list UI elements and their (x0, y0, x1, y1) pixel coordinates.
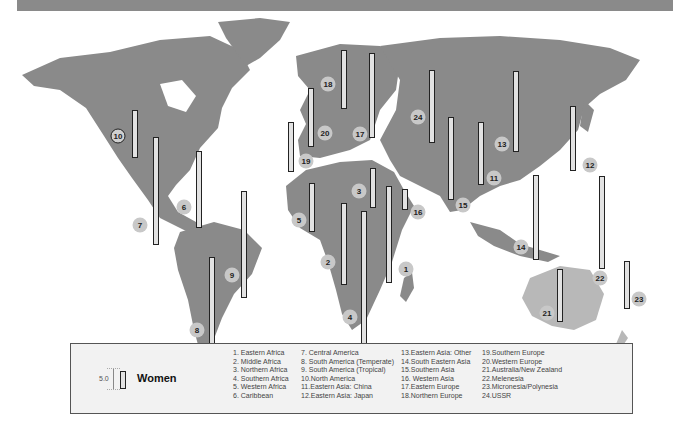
region-bar (288, 122, 294, 172)
region-bar (533, 175, 539, 260)
region-bar (308, 88, 314, 147)
scale-arrow-icon (113, 368, 114, 390)
region-bar (386, 186, 392, 283)
legend-item: 2. Middle Africa (233, 358, 289, 367)
legend-column-2: 7. Central America 8. South America (Tem… (301, 349, 394, 401)
legend-key: 5.0 Women (93, 368, 173, 392)
region-bar (478, 122, 484, 185)
region-number-marker: 7 (133, 218, 148, 233)
region-bar (209, 257, 215, 356)
region-number-marker: 1 (399, 262, 414, 277)
region-bar (153, 137, 159, 245)
region-number-marker: 9 (225, 268, 240, 283)
region-bar (402, 189, 408, 210)
legend-item: 17.Eastern Europe (401, 383, 471, 392)
region-bar (309, 183, 315, 232)
region-number-marker: 19 (299, 154, 314, 169)
region-bar (448, 117, 454, 200)
region-number-marker: 22 (593, 271, 608, 286)
region-bar (341, 50, 347, 109)
legend-item: 15.Southern Asia (401, 366, 471, 375)
region-bar (557, 269, 563, 322)
region-number-marker: 3 (352, 184, 367, 199)
legend-item: 13.Eastern Asia: Other (401, 349, 471, 358)
region-number-marker: 4 (343, 310, 358, 325)
legend-item: 12.Eastern Asia: Japan (301, 392, 394, 401)
legend-item: 23.Micronesia/Polynesia (482, 383, 562, 392)
region-bar (599, 176, 605, 269)
region-number-marker: 6 (177, 200, 192, 215)
region-number-marker: 11 (487, 171, 502, 186)
region-number-marker: 2 (321, 255, 336, 270)
region-number-marker: 12 (583, 158, 598, 173)
region-number-marker: 13 (495, 137, 510, 152)
region-bar (429, 70, 435, 143)
legend-item: 19.Southern Europe (482, 349, 562, 358)
region-bar (513, 71, 519, 152)
scale-value: 5.0 (99, 375, 109, 382)
legend-item: 4. Southern Africa (233, 375, 289, 384)
region-bar (132, 110, 138, 158)
region-bar (241, 191, 247, 298)
region-number-marker: 18 (321, 77, 336, 92)
region-number-marker: 14 (514, 240, 529, 255)
legend-item: 9. South America (Tropical) (301, 366, 394, 375)
legend-item: 3. Northern Africa (233, 366, 289, 375)
legend-item: 11.Eastern Asia: China (301, 383, 394, 392)
legend-item: 10.North America (301, 375, 394, 384)
region-bar (624, 261, 630, 309)
legend-column-4: 19.Southern Europe 20.Western Europe 21.… (482, 349, 562, 401)
legend-item: 8. South America (Temperate) (301, 358, 394, 367)
legend-column-3: 13.Eastern Asia: Other 14.South Eastern … (401, 349, 471, 401)
region-bar (341, 203, 347, 285)
region-bar (570, 106, 576, 171)
region-number-marker: 20 (318, 126, 333, 141)
legend-item: 22.Melenesia (482, 375, 562, 384)
region-number-marker: 23 (632, 292, 647, 307)
region-bar (196, 151, 202, 228)
region-number-marker: 17 (353, 127, 368, 142)
legend-panel: 5.0 Women 1. Eastern Africa 2. Middle Af… (70, 343, 633, 414)
region-number-marker: 24 (411, 110, 426, 125)
region-number-marker: 8 (190, 323, 205, 338)
region-bar (361, 211, 367, 351)
legend-title: Women (137, 372, 177, 384)
legend-item: 18.Northern Europe (401, 392, 471, 401)
legend-item: 6. Caribbean (233, 392, 289, 401)
women-bar-icon (120, 371, 126, 389)
legend-column-1: 1. Eastern Africa 2. Middle Africa 3. No… (233, 349, 289, 401)
region-number-marker: 15 (456, 198, 471, 213)
region-number-marker: 16 (411, 205, 426, 220)
legend-item: 16. Western Asia (401, 375, 471, 384)
legend-item: 21.Australia/New Zealand (482, 366, 562, 375)
legend-item: 14.South Eastern Asia (401, 358, 471, 367)
region-bar (369, 53, 375, 138)
legend-item: 7. Central America (301, 349, 394, 358)
legend-item: 1. Eastern Africa (233, 349, 289, 358)
region-number-marker: 10 (111, 129, 126, 144)
region-bar (370, 168, 376, 208)
region-number-marker: 5 (292, 213, 307, 228)
legend-item: 24.USSR (482, 392, 562, 401)
legend-item: 5. Western Africa (233, 383, 289, 392)
legend-item: 20.Western Europe (482, 358, 562, 367)
region-number-marker: 21 (540, 306, 555, 321)
